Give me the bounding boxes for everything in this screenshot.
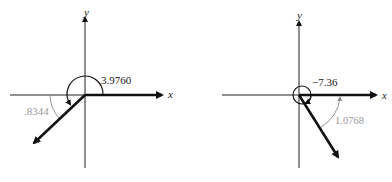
angle-label: 3.9760 xyxy=(101,74,132,86)
reference-angle-label: 1.0768 xyxy=(335,115,364,126)
diagram-canvas: y x 3.9760 .8344 y x −7.36 1.0768 xyxy=(0,0,392,182)
terminal-vector xyxy=(34,95,85,143)
figure-right xyxy=(222,22,376,168)
terminal-vector xyxy=(299,95,338,157)
y-axis-label: y xyxy=(296,9,302,21)
x-axis-label: x xyxy=(381,89,387,101)
x-axis-label: x xyxy=(167,88,173,100)
reference-angle-arc xyxy=(50,95,59,118)
y-axis-label: y xyxy=(83,6,89,18)
figure-left xyxy=(10,18,162,168)
reference-angle-label: .8344 xyxy=(24,105,49,117)
angle-label: −7.36 xyxy=(312,76,338,88)
